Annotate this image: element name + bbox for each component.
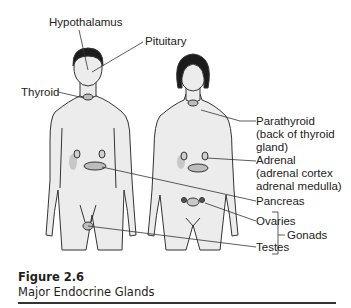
figure-title: Major Endocrine Glands [18,285,154,299]
male-figure [46,48,136,250]
caption-divider [18,302,336,304]
label-adrenal-line-2: (adrenal cortex [256,167,342,180]
label-pancreas: Pancreas [256,195,305,208]
label-testes: Testes [256,241,289,254]
label-adrenal: Adrenal (adrenal cortex adrenal medulla) [256,154,342,193]
label-ovaries: Ovaries [256,215,296,228]
label-gonads: Gonads [287,229,327,242]
figure-number: Figure 2.6 [18,270,84,284]
label-adrenal-line-3: adrenal medulla) [256,180,342,193]
label-adrenal-line-1: Adrenal [256,154,342,167]
label-parathyroid-line-3: gland) [256,141,335,154]
label-parathyroid-line-1: Parathyroid [256,115,335,128]
label-hypothalamus: Hypothalamus [49,16,123,29]
female-figure [148,54,238,250]
label-parathyroid: Parathyroid (back of thyroid gland) [256,115,335,154]
label-thyroid: Thyroid [21,86,59,99]
label-parathyroid-line-2: (back of thyroid [256,128,335,141]
label-pituitary: Pituitary [145,35,187,48]
